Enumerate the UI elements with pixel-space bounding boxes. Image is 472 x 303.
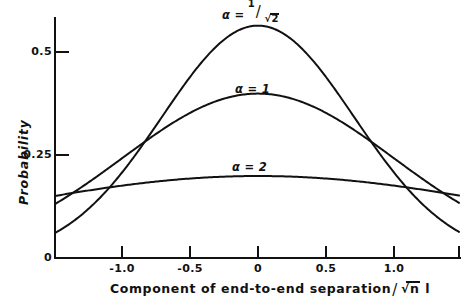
sqrt-radicand-2: 2 — [272, 13, 279, 24]
y-axis-title: Probability — [16, 119, 31, 205]
one-over-sqrt-two-fraction: 1 / √2 — [249, 5, 275, 21]
series-label-alpha-2: α = 2 — [232, 160, 267, 174]
y-tick-label-0: 0 — [14, 251, 52, 264]
radical-overbar — [406, 281, 420, 283]
fraction-slash: / — [255, 3, 262, 21]
curve-alpha-inv-sqrt2 — [55, 26, 459, 233]
series-label-alpha-inv-sqrt2: α = 1 / √2 — [222, 5, 275, 22]
fraction-denominator-sqrt2: √2 — [264, 13, 279, 24]
sqrt-symbol-icon: √2 — [264, 13, 279, 24]
x-tick-label-1.0: 1.0 — [369, 262, 419, 275]
y-tick-label-0.5: 0.5 — [14, 45, 52, 58]
x-axis-title-main: Component of end-to-end separation — [110, 281, 391, 296]
x-axis-unit-l: l — [425, 281, 430, 296]
radicand-n: n — [410, 281, 420, 296]
x-tick-label--1.0: -1.0 — [97, 262, 147, 275]
plot-canvas — [0, 0, 472, 303]
x-axis-title: Component of end-to-end separation/√n l — [110, 281, 430, 299]
probability-distribution-figure: 0.5 0.25 0 -1.0 -0.5 0 0.5 1.0 Probabili… — [0, 0, 472, 303]
x-tick-label-0.5: 0.5 — [301, 262, 351, 275]
x-axis-title-slash: / — [391, 281, 399, 299]
sqrt-n-radical: √n — [399, 281, 420, 296]
series-label-alpha-1: α = 1 — [235, 82, 270, 96]
sqrt-overbar — [270, 13, 279, 15]
alpha-equals-text: α = — [222, 8, 244, 22]
x-tick-label-0: 0 — [233, 262, 283, 275]
x-tick-label--0.5: -0.5 — [165, 262, 215, 275]
